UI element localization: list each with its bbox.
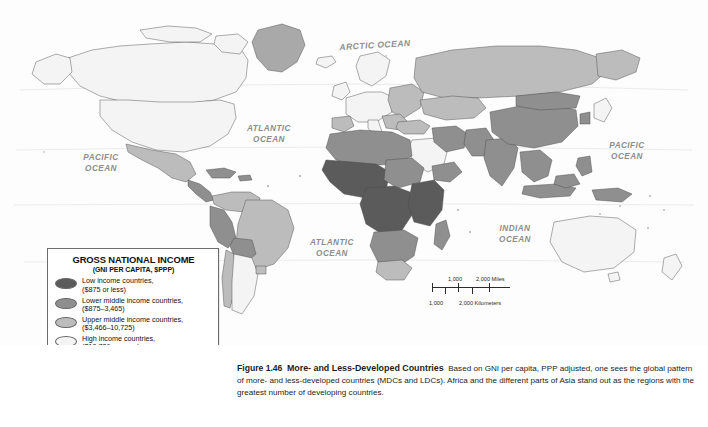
legend-item-high-income[interactable]: High income countries, ($10,726 or more) — [55, 335, 212, 345]
legend-label-low-income: Low income countries, ($875 or less) — [82, 277, 154, 294]
scale-tick-mid — [458, 283, 459, 292]
scale-tick-km-mid — [445, 287, 446, 294]
legend-item-lower-middle-income[interactable]: Lower middle income countries, ($875–3,4… — [55, 297, 212, 314]
legend-subtitle: (GNI PER CAPITA, $PPP) — [55, 266, 212, 273]
region-uruguay — [256, 266, 266, 274]
figure-title: More- and Less-Developed Countries — [287, 363, 444, 373]
legend-label-high-income: High income countries, ($10,726 or more) — [82, 335, 155, 345]
scale-miles-end: 2,000 Miles — [476, 276, 505, 282]
region-tasmania — [608, 272, 620, 282]
scale-tick-km-end — [472, 287, 473, 294]
legend-swatch-upper-middle-income — [55, 317, 77, 328]
world-map: .land { stroke:#4a4a4a; stroke-width:0.4… — [0, 0, 708, 345]
region-hispaniola — [238, 175, 252, 181]
legend-swatch-high-income — [55, 336, 77, 345]
scale-tick-0 — [432, 283, 433, 292]
figure-caption: Figure 1.46 More- and Less-Developed Cou… — [237, 362, 699, 398]
scale-km-end: 2,000 Kilometers — [459, 300, 501, 306]
scale-miles-mid: 1,000 — [448, 276, 462, 282]
region-korea — [580, 112, 590, 124]
scale-bar: 1,000 2,000 Miles 1,000 2,000 Kilometers — [432, 276, 536, 310]
legend-item-low-income[interactable]: Low income countries, ($875 or less) — [55, 277, 212, 294]
legend-item-upper-middle-income[interactable]: Upper middle income countries, ($3,466–1… — [55, 316, 212, 333]
legend-title: GROSS NATIONAL INCOME — [55, 255, 212, 265]
map-legend: GROSS NATIONAL INCOME (GNI PER CAPITA, $… — [47, 248, 219, 345]
figure-number: Figure 1.46 — [237, 363, 282, 373]
scale-tick-end — [489, 283, 490, 292]
scale-km-mid: 1,000 — [429, 300, 443, 306]
legend-swatch-low-income — [55, 278, 77, 289]
legend-label-upper-middle-income: Upper middle income countries, ($3,466–1… — [82, 316, 183, 333]
legend-swatch-lower-middle-income — [55, 298, 77, 309]
figure-container: .land { stroke:#4a4a4a; stroke-width:0.4… — [0, 0, 708, 427]
legend-label-lower-middle-income: Lower middle income countries, ($875–3,4… — [82, 297, 183, 314]
scale-bar-line — [432, 287, 510, 288]
